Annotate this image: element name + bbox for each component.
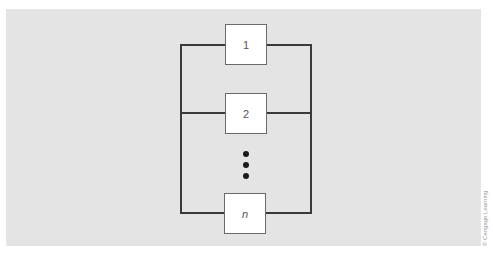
ellipsis-dot-3 (243, 173, 249, 179)
branch-2-right-wire (267, 112, 312, 114)
ellipsis-dot-2 (243, 162, 249, 168)
block-1: 1 (225, 24, 267, 65)
branch-1-left-wire (180, 44, 225, 46)
block-n-label: n (242, 208, 248, 220)
block-2: 2 (225, 93, 267, 134)
branch-1-right-wire (267, 44, 312, 46)
ellipsis-dot-1 (243, 151, 249, 157)
copyright-credit: © Cengage Learning (482, 191, 488, 246)
branch-n-right-wire (266, 212, 312, 214)
branch-n-left-wire (180, 212, 225, 214)
block-2-label: 2 (243, 108, 249, 120)
right-bus-line (310, 44, 312, 214)
branch-2-left-wire (180, 112, 225, 114)
block-1-label: 1 (243, 39, 249, 51)
block-n: n (224, 193, 266, 234)
left-bus-line (180, 44, 182, 214)
